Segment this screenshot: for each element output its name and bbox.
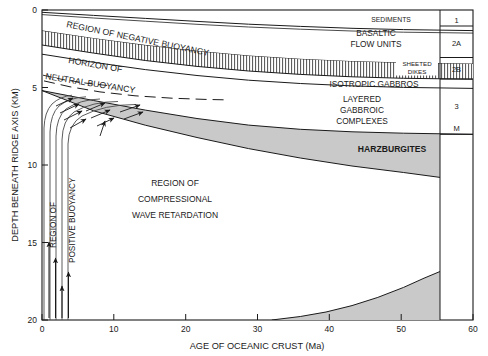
seismic-code-m: M <box>453 124 459 133</box>
y-tick-label-10: 10 <box>28 160 38 170</box>
label-compressional-line2: COMPRESSIONAL <box>138 194 212 204</box>
x-tick-label-40: 40 <box>325 324 335 334</box>
label-harzburgites: HARZBURGITES <box>358 144 427 154</box>
y-tick-label-0: 0 <box>32 5 37 15</box>
y-tick-label-20: 20 <box>28 315 38 325</box>
x-tick-label-30: 30 <box>253 324 263 334</box>
x-tick-label-20: 20 <box>181 324 191 334</box>
label-complexes: COMPLEXES <box>336 116 388 126</box>
label-compressional-line3: WAVE RETARDATION <box>132 210 218 220</box>
label-positive-buoyancy: POSITIVE BUOYANCY <box>68 177 77 263</box>
label-layered: LAYERED <box>343 94 381 104</box>
label-region-of: REGION OF <box>49 202 58 248</box>
x-axis-title: AGE OF OCEANIC CRUST (Ma) <box>190 341 325 351</box>
label-sheeted: SHEETED <box>402 60 432 67</box>
label-flow-units: FLOW UNITS <box>350 39 402 49</box>
y-tick-label-5: 5 <box>32 83 37 93</box>
seismic-code-2b: 2B <box>452 65 461 74</box>
label-basaltic: BASALTIC <box>356 28 396 38</box>
cross-section-svg: 1 2A 2B 3 M REGION OF NEGATIVE BUOYANCY … <box>0 0 488 356</box>
label-gabbroic: GABBROIC <box>340 105 384 115</box>
seismic-code-3: 3 <box>454 102 458 111</box>
x-tick-label-50: 50 <box>396 324 406 334</box>
y-tick-label-15: 15 <box>28 238 38 248</box>
seismic-code-2a: 2A <box>452 39 461 48</box>
y-axis-title: DEPTH BENEATH RIDGE AXIS (KM) <box>10 88 20 242</box>
label-sediments: SEDIMENTS <box>371 16 411 23</box>
figure-root: 1 2A 2B 3 M REGION OF NEGATIVE BUOYANCY … <box>0 0 488 356</box>
label-compressional-line1: REGION OF <box>151 178 199 188</box>
label-isotropic-gabbros: ISOTROPIC GABBROS <box>330 79 419 89</box>
x-tick-label-0: 0 <box>40 324 45 334</box>
x-tick-label-10: 10 <box>109 324 119 334</box>
label-dikes: DIKES <box>408 68 427 75</box>
seismic-code-1: 1 <box>454 16 458 25</box>
x-tick-label-60: 60 <box>468 324 478 334</box>
